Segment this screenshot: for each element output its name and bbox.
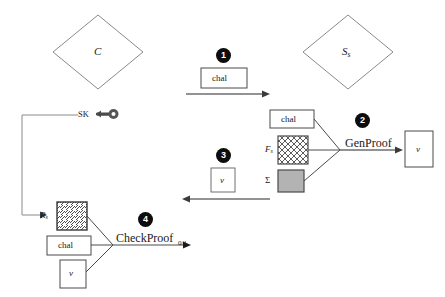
key-icon [96, 109, 119, 119]
sk-label: SK [78, 110, 89, 119]
step4-input-chal-label: chal [58, 241, 73, 250]
step3-arrow [182, 196, 270, 203]
marker-4: 4 [138, 212, 153, 227]
diagram-canvas: C Ss SK 1 chal 2 GenProof chal Fs Σ v 3 … [0, 0, 445, 297]
marker-1: 1 [216, 48, 231, 63]
step2-input-chal-label: chal [281, 115, 296, 124]
step2-input-sigma-shape [278, 170, 304, 192]
step1-arrow [186, 91, 270, 98]
step4-input-rs-label: Rs [40, 211, 48, 220]
step2-input-fs-shape [278, 136, 308, 164]
step4-input-v-shape [60, 260, 86, 288]
actor-client-label: C [94, 46, 101, 57]
step4-input-v-label: v [69, 269, 73, 278]
step2-output-v-label: v [416, 145, 420, 154]
marker-3: 3 [216, 148, 231, 163]
actor-server-label: Ss [342, 46, 350, 58]
step3-box-label: v [220, 176, 224, 185]
step1-box-label: chal [212, 74, 227, 83]
step4-input-rs-shape [57, 202, 87, 230]
step2-input-sigma-label: Σ [265, 176, 270, 185]
step2-input-fs-label: Fs [265, 145, 273, 154]
step2-process-label: GenProof [345, 137, 392, 149]
step4-output-label: 0/1 [178, 240, 187, 247]
marker-2: 2 [355, 113, 370, 128]
step4-process-label: CheckProof [116, 232, 173, 244]
